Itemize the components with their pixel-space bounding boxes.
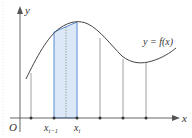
y-axis-label: y bbox=[24, 4, 30, 16]
tick-mark bbox=[53, 117, 56, 120]
x-axis-arrow-icon bbox=[172, 115, 180, 121]
shaded-strip bbox=[54, 22, 77, 118]
curve-f-of-x bbox=[26, 22, 176, 79]
x-axis-label: x bbox=[181, 112, 187, 124]
tick-label-subscript: i bbox=[78, 127, 80, 134]
tick-label-subscript: i−1 bbox=[48, 127, 57, 134]
riemann-sum-diagram: y x O y = f(x) xi−1 xi bbox=[0, 0, 192, 138]
curve-label: y = f(x) bbox=[142, 36, 174, 48]
origin-label: O bbox=[9, 121, 17, 133]
y-axis-arrow-icon bbox=[17, 6, 23, 14]
tick-label-x-i-minus-1: xi−1 bbox=[43, 122, 58, 134]
tick-mark bbox=[99, 117, 102, 120]
tick-mark bbox=[122, 117, 125, 120]
tick-mark bbox=[145, 117, 148, 120]
tick-label-x-i: xi bbox=[73, 122, 80, 134]
tick-mark bbox=[30, 117, 33, 120]
tick-mark bbox=[76, 117, 79, 120]
